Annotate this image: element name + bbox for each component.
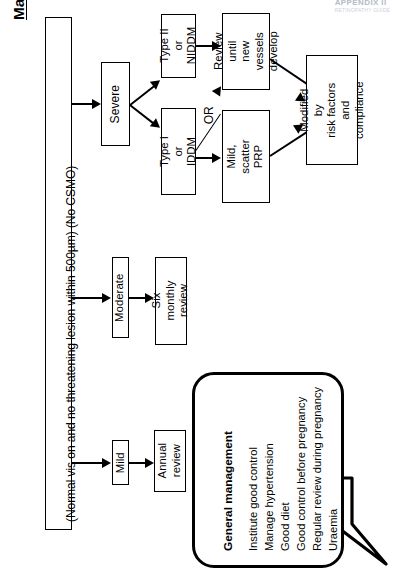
six-monthly-review-box: Six monthlyreview [155, 257, 187, 345]
connector-criteria-to-moderate [72, 297, 102, 299]
general-management-item: Good control before pregnancy [295, 397, 307, 551]
connector-criteria-to-mild [72, 462, 102, 464]
review-until-label: Review untilnew vesselsdevelop [212, 29, 280, 75]
general-management-item: Manage hypertension [263, 443, 275, 551]
annual-review-label: Annualreview [156, 443, 183, 478]
connector-criteria-to-severe [72, 103, 92, 105]
general-management-callout: General management Institute good contro… [192, 372, 344, 568]
arrowhead-criteria-to-mild [102, 458, 111, 468]
mild-box: Mild [112, 440, 129, 485]
page-title: Management of non-proliferative retinopa… [10, 0, 28, 20]
severe-label: Severe [108, 85, 123, 123]
modified-by-box: Modified byrisk factors andcompliance [306, 55, 358, 165]
general-management-item: Regular review during pregnancy [311, 387, 323, 551]
mild-label: Mild [114, 452, 128, 473]
general-management-item: Institute good control [247, 447, 259, 551]
general-management-item: Good diet [279, 502, 291, 551]
appendix-header-title: APPENDIX II [335, 0, 387, 7]
scatter-prp-box: Mild,scatter PRP [222, 110, 270, 203]
general-management-content: General management Institute good contro… [195, 375, 347, 571]
connector-moderate-to-six-monthly [129, 297, 146, 299]
annual-review-box: Annualreview [154, 430, 186, 492]
moderate-label: Moderate [114, 273, 128, 321]
or-label-wrapper: OR [200, 95, 218, 135]
review-until-box: Review untilnew vesselsdevelop [222, 13, 270, 90]
arrowhead-criteria-to-moderate [102, 293, 111, 303]
general-management-heading: General management [221, 431, 235, 551]
severe-box: Severe [101, 62, 130, 146]
appendix-header-subtitle: RETINOPATHY GUIDE [335, 7, 390, 13]
modified-by-label: Modified byrisk factors andcompliance [298, 81, 366, 139]
type1-label: Type Ior IDDM [158, 135, 199, 168]
appendix-header-mark: APPENDIX II RETINOPATHY GUIDE [335, 0, 390, 13]
arrowhead-mild-to-annual [145, 458, 154, 468]
type1-box: Type Ior IDDM [161, 108, 196, 195]
scatter-prp-label: Mild,scatter PRP [225, 134, 266, 180]
general-management-item: Uraemia [327, 509, 339, 551]
six-monthly-review-label: Six monthlyreview [150, 281, 191, 321]
moderate-box: Moderate [112, 257, 129, 338]
page-title-wrapper: Management of non-proliferative retinopa… [10, 20, 36, 320]
or-label: OR [202, 106, 217, 124]
diagram-canvas: APPENDIX II RETINOPATHY GUIDE Management… [0, 0, 396, 580]
type2-label: Type IIor NIDDM [158, 27, 199, 64]
arrowhead-type1-to-prp [212, 153, 221, 163]
criteria-text: (Normal vis on and no threatening lesion… [64, 166, 78, 522]
arrowhead-criteria-to-severe [92, 99, 101, 109]
connector-mild-to-annual [129, 462, 146, 464]
type2-box: Type IIor NIDDM [161, 14, 196, 78]
